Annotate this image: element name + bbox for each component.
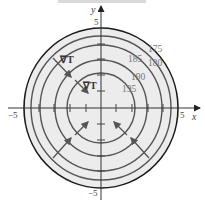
gradient-label-outer: ∇T	[59, 54, 74, 65]
contour-diagram: ∇T ∇T 175 180 185 190 195 −5 5 x 5 −5 y	[0, 0, 205, 205]
contour-label-180: 180	[148, 58, 163, 68]
x-axis-label: x	[191, 111, 197, 122]
x-axis-min-label: −5	[8, 110, 18, 120]
y-axis-max-label: 5	[94, 17, 99, 27]
contour-label-190: 190	[131, 72, 146, 82]
y-axis-label: y	[90, 4, 96, 15]
contour-label-175: 175	[148, 44, 163, 54]
contour-label-185: 185	[128, 54, 143, 64]
contour-label-195: 195	[122, 84, 137, 94]
gradient-label-inner: ∇T	[82, 80, 97, 91]
x-axis-max-label: 5	[180, 110, 185, 120]
y-axis-min-label: −5	[88, 188, 98, 198]
